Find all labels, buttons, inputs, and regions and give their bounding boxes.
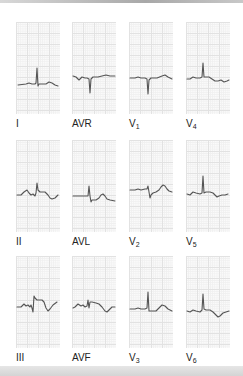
ecg-grid-panel: [16, 22, 60, 114]
ecg-grid-panel: [16, 256, 60, 348]
ecg-grid-panel: [186, 22, 230, 114]
bottom-border: [0, 366, 243, 376]
top-border: [0, 0, 243, 3]
ecg-grid-panel: [129, 256, 173, 348]
lead-label: V5: [186, 236, 197, 251]
ecg-grid-panel: [72, 256, 116, 348]
ecg-trace-V3: [129, 256, 173, 348]
lead-label: II: [16, 236, 22, 251]
ecg-grid-panel: [129, 22, 173, 114]
ecg-trace-III: [16, 256, 60, 348]
ecg-trace-V5: [186, 140, 230, 232]
lead-label: V2: [129, 236, 140, 251]
ecg-grid-panel: [129, 140, 173, 232]
ecg-grid-panel: [186, 140, 230, 232]
ecg-trace-V2: [129, 140, 173, 232]
lead-label: III: [16, 352, 24, 367]
lead-label: V4: [186, 118, 197, 133]
ecg-trace-V6: [186, 256, 230, 348]
ecg-trace-V1: [129, 22, 173, 114]
ecg-grid-panel: [72, 22, 116, 114]
lead-label: AVL: [72, 236, 90, 251]
ecg-trace-II: [16, 140, 60, 232]
lead-label: I: [16, 118, 19, 133]
lead-label: V3: [129, 352, 140, 367]
ecg-grid-panel: [186, 256, 230, 348]
lead-label: AVF: [72, 352, 91, 367]
lead-label: V1: [129, 118, 140, 133]
ecg-trace-V4: [186, 22, 230, 114]
ecg-trace-I: [16, 22, 60, 114]
lead-label: V6: [186, 352, 197, 367]
lead-label: AVR: [72, 118, 92, 133]
ecg-trace-AVF: [72, 256, 116, 348]
ecg-trace-AVR: [72, 22, 116, 114]
ecg-trace-AVL: [72, 140, 116, 232]
ecg-grid-panel: [72, 140, 116, 232]
ecg-grid-panel: [16, 140, 60, 232]
